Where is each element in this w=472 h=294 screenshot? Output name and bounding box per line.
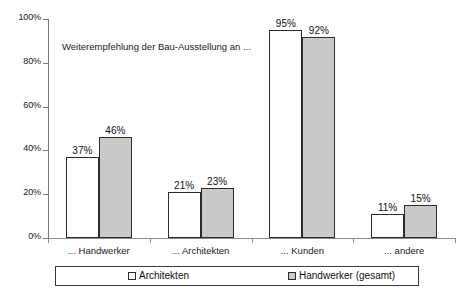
bar: 23% (201, 188, 234, 238)
y-tick-label: 20% (23, 188, 41, 197)
x-tick-mark (353, 238, 354, 243)
bar-value-label: 15% (411, 193, 431, 204)
bar-value-label: 23% (207, 176, 227, 187)
legend-swatch-icon-architekten (128, 272, 136, 280)
legend-swatch-icon-handwerker-gesamt (288, 272, 296, 280)
bar-value-label: 92% (309, 25, 329, 36)
bar: 37% (66, 157, 99, 238)
y-tick-label: 100% (18, 13, 41, 22)
x-tick-mark-edge (455, 238, 456, 243)
bar: 15% (404, 205, 437, 238)
bar: 21% (168, 192, 201, 238)
category-label: ... andere (384, 245, 424, 256)
x-tick-mark-edge (48, 238, 49, 243)
bar: 11% (371, 214, 404, 238)
legend-label-architekten: Architekten (139, 270, 189, 282)
bar-chart: 0%20%40%60%80%100% Weiterempfehlung der … (0, 0, 472, 294)
category-label: ... Kunden (281, 245, 324, 256)
bar: 46% (99, 137, 132, 238)
legend-item-handwerker-gesamt: Handwerker (gesamt) (288, 270, 395, 282)
plot-area: 37%46%21%23%95%92%11%15% (48, 19, 455, 238)
y-tick-label: 0% (28, 232, 41, 241)
y-tick-label: 80% (23, 57, 41, 66)
bar: 92% (302, 37, 335, 238)
bar-value-label: 95% (276, 18, 296, 29)
x-tick-mark (150, 238, 151, 243)
category-label: ... Architekten (172, 245, 230, 256)
category-label: ... Handwerker (68, 245, 130, 256)
x-tick-mark (252, 238, 253, 243)
legend-label-handwerker-gesamt: Handwerker (gesamt) (299, 270, 395, 282)
bar-value-label: 46% (105, 125, 125, 136)
y-tick-label: 60% (23, 101, 41, 110)
y-tick-label: 40% (23, 144, 41, 153)
bar-value-label: 21% (174, 180, 194, 191)
chart-legend: Architekten Handwerker (gesamt) (55, 266, 419, 286)
bar: 95% (269, 30, 302, 238)
bar-value-label: 37% (72, 145, 92, 156)
bar-value-label: 11% (378, 202, 397, 213)
legend-item-architekten: Architekten (128, 270, 189, 282)
